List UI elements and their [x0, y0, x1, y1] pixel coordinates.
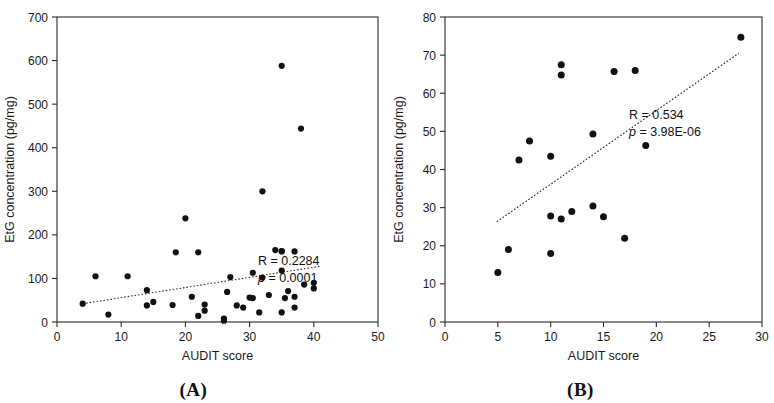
- data-point: [189, 294, 195, 300]
- y-tick-label: 100: [28, 272, 48, 286]
- y-axis-title: EtG concentration (pg/mg): [392, 96, 406, 243]
- scatter-plot-a: 010203040500100200300400500600700AUDIT s…: [0, 0, 387, 370]
- scatter-plot-b: 05101520253001020304050607080AUDIT score…: [387, 0, 774, 370]
- y-axis-title: EtG concentration (pg/mg): [3, 96, 17, 243]
- x-axis-title: AUDIT score: [568, 349, 639, 363]
- x-tick-label: 10: [115, 330, 129, 344]
- y-tick-label: 80: [423, 11, 437, 25]
- y-tick-label: 700: [28, 11, 48, 25]
- data-point: [266, 292, 272, 298]
- y-tick-label: 20: [423, 239, 437, 253]
- pvalue-italic-p: p: [257, 271, 265, 285]
- panel-a: 010203040500100200300400500600700AUDIT s…: [0, 0, 387, 403]
- data-point: [173, 249, 179, 255]
- data-point: [227, 274, 233, 280]
- y-tick-label: 500: [28, 98, 48, 112]
- data-point: [92, 273, 98, 279]
- data-point: [125, 273, 131, 279]
- data-point: [240, 305, 246, 311]
- x-tick-label: 50: [371, 330, 385, 344]
- data-point: [642, 142, 649, 149]
- x-tick-label: 15: [597, 330, 611, 344]
- plot-frame: [445, 17, 762, 322]
- x-tick-label: 5: [494, 330, 501, 344]
- y-tick-label: 300: [28, 185, 48, 199]
- x-tick-label: 30: [755, 330, 769, 344]
- x-axis-title: AUDIT score: [182, 349, 253, 363]
- x-tick-label: 20: [650, 330, 664, 344]
- data-point: [515, 156, 522, 163]
- x-tick-label: 20: [179, 330, 193, 344]
- data-point: [558, 216, 565, 223]
- data-point: [611, 68, 618, 75]
- data-point: [272, 247, 278, 253]
- data-point: [505, 246, 512, 253]
- pvalue-rest: = 0.0001: [265, 271, 318, 285]
- data-point: [291, 305, 297, 311]
- data-point: [558, 71, 565, 78]
- data-point: [282, 295, 288, 301]
- x-tick-label: 25: [702, 330, 716, 344]
- data-point: [234, 302, 240, 308]
- panel-b-caption: (B): [387, 379, 774, 401]
- panel-a-caption: (A): [0, 379, 387, 401]
- data-point: [600, 213, 607, 220]
- data-point: [632, 67, 639, 74]
- data-point: [195, 249, 201, 255]
- data-point: [144, 287, 150, 293]
- plot-a-body: 010203040500100200300400500600700AUDIT s…: [3, 11, 385, 364]
- data-point: [144, 302, 150, 308]
- data-point: [224, 289, 230, 295]
- data-point: [202, 308, 208, 314]
- y-tick-label: 600: [28, 54, 48, 68]
- pvalue-italic-p: p: [628, 125, 636, 139]
- trendline: [497, 53, 739, 222]
- x-tick-label: 0: [54, 330, 61, 344]
- data-point: [279, 63, 285, 69]
- data-point: [250, 270, 256, 276]
- y-tick-label: 400: [28, 141, 48, 155]
- y-tick-label: 60: [423, 87, 437, 101]
- data-point: [589, 131, 596, 138]
- data-point: [105, 311, 111, 317]
- data-point: [182, 215, 188, 221]
- data-point: [256, 309, 262, 315]
- data-point: [291, 294, 297, 300]
- y-tick-label: 70: [423, 49, 437, 63]
- data-point: [558, 61, 565, 68]
- data-point: [150, 299, 156, 305]
- data-point: [259, 188, 265, 194]
- data-point: [526, 137, 533, 144]
- data-point: [494, 269, 501, 276]
- data-point: [547, 153, 554, 160]
- data-point: [737, 34, 744, 41]
- plot-b-body: 05101520253001020304050607080AUDIT score…: [392, 11, 769, 364]
- y-tick-label: 40: [423, 163, 437, 177]
- y-tick-label: 10: [423, 277, 437, 291]
- panel-b: 05101520253001020304050607080AUDIT score…: [387, 0, 774, 403]
- y-tick-label: 200: [28, 228, 48, 242]
- data-point: [195, 313, 201, 319]
- correlation-label: R = 0.2284: [258, 254, 320, 268]
- data-point: [568, 208, 575, 215]
- data-point: [547, 213, 554, 220]
- y-tick-label: 30: [423, 201, 437, 215]
- correlation-label: R = 0.534: [629, 108, 684, 122]
- x-tick-label: 40: [307, 330, 321, 344]
- data-point: [80, 301, 86, 307]
- data-point: [547, 250, 554, 257]
- data-point: [169, 302, 175, 308]
- y-tick-label: 50: [423, 125, 437, 139]
- data-point: [250, 295, 256, 301]
- y-tick-label: 0: [429, 316, 436, 330]
- data-point: [285, 288, 291, 294]
- data-point: [202, 301, 208, 307]
- data-point: [298, 125, 304, 131]
- data-point: [279, 309, 285, 315]
- plot-frame: [57, 17, 378, 322]
- figure-container: 010203040500100200300400500600700AUDIT s…: [0, 0, 774, 403]
- data-point: [311, 285, 317, 291]
- y-tick-label: 0: [41, 316, 48, 330]
- x-tick-label: 30: [243, 330, 257, 344]
- x-tick-label: 0: [442, 330, 449, 344]
